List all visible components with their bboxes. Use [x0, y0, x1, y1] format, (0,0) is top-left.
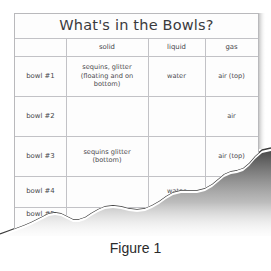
cell-bowl1-gas: air (top)	[205, 56, 258, 96]
cell-bowl3-solid: sequins glitter (bottom)	[66, 136, 148, 176]
column-header-liquid: liquid	[148, 38, 205, 56]
figure-container: What's in the Bowls? solid liquid gas bo…	[0, 0, 271, 271]
cell-bowl4-solid	[66, 176, 148, 207]
row-label-bowl-1: bowl #1	[15, 56, 66, 96]
torn-paper-sheet: What's in the Bowls? solid liquid gas bo…	[0, 0, 271, 236]
cell-bowl1-solid: sequins, glitter (floating and on bottom…	[66, 56, 148, 96]
cell-bowl1-liquid: water	[148, 56, 205, 96]
table-title: What's in the Bowls?	[16, 17, 257, 33]
cell-bowl2-liquid	[148, 96, 205, 136]
figure-caption: Figure 1	[0, 240, 271, 256]
row-label-bowl-4: bowl #4	[15, 176, 66, 207]
cell-bowl2-solid	[66, 96, 148, 136]
column-header-solid: solid	[66, 38, 148, 56]
row-label-bowl-2: bowl #2	[15, 96, 66, 136]
cell-bowl3-liquid	[148, 136, 205, 176]
cell-bowl2-gas: air	[205, 96, 258, 136]
row-label-bowl-3: bowl #3	[15, 136, 66, 176]
table-corner-header	[15, 38, 66, 56]
column-header-gas: gas	[205, 38, 258, 56]
